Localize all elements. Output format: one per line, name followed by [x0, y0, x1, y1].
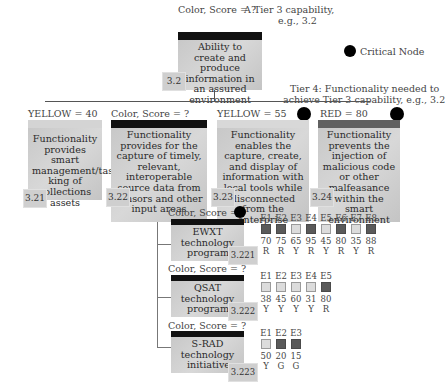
element-qsat-e4: E431Y: [305, 271, 317, 314]
critical-node-icon-ewxt: [234, 206, 246, 218]
program-name-srad-line1: S-RAD: [175, 339, 240, 350]
tier4-status-3-24: RED = 80: [320, 108, 368, 119]
tier4-id-3-23: 3.23: [212, 189, 234, 206]
tier3-annotation-line2: e.g., 3.2: [278, 15, 317, 26]
tier4-status-3-23: YELLOW = 55: [217, 108, 286, 119]
program-name-ewxt-line1: EWXT: [175, 227, 240, 238]
critical-node-legend-icon: [344, 45, 356, 57]
tier4-bar-3-21: [28, 120, 102, 128]
program-name-qsat-line1: QSAT: [175, 283, 240, 294]
tier4-status-3-21: YELLOW = 40: [28, 108, 97, 119]
element-ewxt-e6: E680R: [335, 213, 347, 256]
element-srad-e3: E315G: [290, 328, 302, 371]
tier4-bar-3-22: [111, 120, 207, 128]
element-ewxt-e4: E495R: [305, 213, 317, 256]
tier4-bar-3-24: [318, 120, 400, 128]
connector-programs-vertical: [157, 222, 158, 348]
element-qsat-e5: E580R: [320, 271, 332, 314]
tier4-status-3-22: Color, Score = ?: [111, 108, 189, 119]
program-id-ewxt: 3.221: [229, 247, 257, 264]
element-ewxt-e1: E170R: [260, 213, 272, 256]
program-id-qsat: 3.222: [229, 303, 257, 320]
element-srad-e1: E150Y: [260, 328, 272, 371]
tier4-annotation-line1: Tier 4: Functionality needed to: [290, 83, 439, 94]
tier4-box-3-24[interactable]: Functionality prevents the injection of …: [318, 128, 400, 222]
element-ewxt-e2: E275R: [275, 213, 287, 256]
tier4-annotation-line2: achieve Tier 3 capability, e.g., 3.2: [283, 94, 445, 105]
element-ewxt-e3: E365Y: [290, 213, 302, 256]
element-qsat-e2: E245Y: [275, 271, 287, 314]
element-ewxt-e7: E735Y: [350, 213, 362, 256]
tier4-id-3-24: 3.24: [311, 189, 333, 206]
tier3-annotation-line1: A Tier 3 capability,: [244, 4, 334, 15]
tier4-id-3-21: 3.21: [24, 190, 46, 207]
element-ewxt-e8: E888R: [365, 213, 377, 256]
connector-ewxt: [157, 244, 171, 245]
tier4-id-3-22: 3.22: [107, 189, 129, 206]
program-status-qsat: Color, Score = ?: [168, 263, 246, 274]
connector-tier4-horizontal: [45, 101, 370, 102]
program-id-srad: 3.223: [229, 364, 257, 381]
critical-node-icon-3-24: [390, 107, 404, 121]
program-status-srad: Color, Score = ?: [168, 320, 246, 331]
tier3-capability-box[interactable]: Ability to create and produce informatio…: [178, 40, 262, 90]
element-srad-e2: E220G: [275, 328, 287, 371]
tier3-id-tag: 3.2: [163, 73, 185, 90]
element-ewxt-e5: E545Y: [320, 213, 332, 256]
critical-node-icon-3-23: [297, 107, 311, 121]
element-qsat-e1: E138Y: [260, 271, 272, 314]
critical-node-legend-label: Critical Node: [360, 46, 424, 57]
element-qsat-e3: E360Y: [290, 271, 302, 314]
connector-srad: [157, 347, 171, 348]
connector-qsat: [157, 297, 171, 298]
tier4-bar-3-23: [217, 120, 309, 128]
tier3-status-bar: [178, 32, 262, 40]
